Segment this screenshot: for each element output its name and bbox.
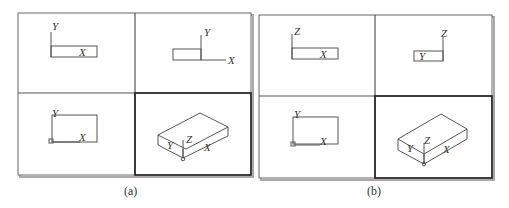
axis-label-z: Z [424, 134, 431, 146]
axis-label-x: X [78, 131, 87, 143]
figure-b [259, 15, 494, 180]
axis-label-x: X [203, 141, 212, 153]
axis-label-x: X [319, 48, 328, 60]
figure-a [18, 13, 253, 177]
caption-b: (b) [367, 184, 381, 199]
figure-canvas: Y X Y X Y X Y Z X Z X Z Y Y X Y Z X [0, 0, 509, 208]
caption-a: (a) [124, 184, 137, 199]
axis-label-x: X [319, 135, 328, 147]
axis-label-z: Z [441, 27, 448, 39]
axis-label-x: X [442, 143, 451, 155]
axis-label-x: X [227, 54, 236, 66]
axis-label-z: Z [186, 133, 193, 145]
axis-label-z: Z [294, 25, 301, 37]
axis-label-x: X [78, 46, 87, 58]
